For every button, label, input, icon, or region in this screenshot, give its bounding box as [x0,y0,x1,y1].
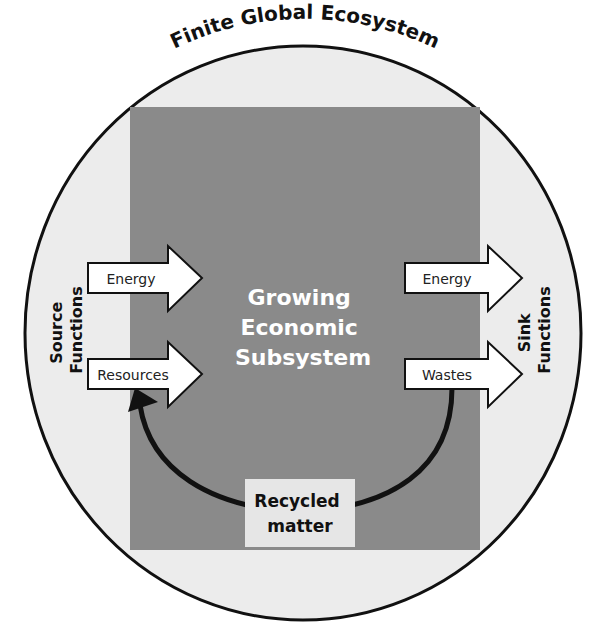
inflow-energy-label: Energy [106,271,155,287]
ecosystem-diagram: Finite Global Ecosystem Growing Economic… [0,0,603,638]
outflow-energy-label: Energy [422,271,471,287]
recycled-matter-box [245,479,355,547]
inflow-resources-label: Resources [97,367,169,383]
outflow-wastes-label: Wastes [422,367,472,383]
source-functions-label: Source Functions [47,286,86,373]
subsystem-label: Growing Economic Subsystem [235,285,371,370]
